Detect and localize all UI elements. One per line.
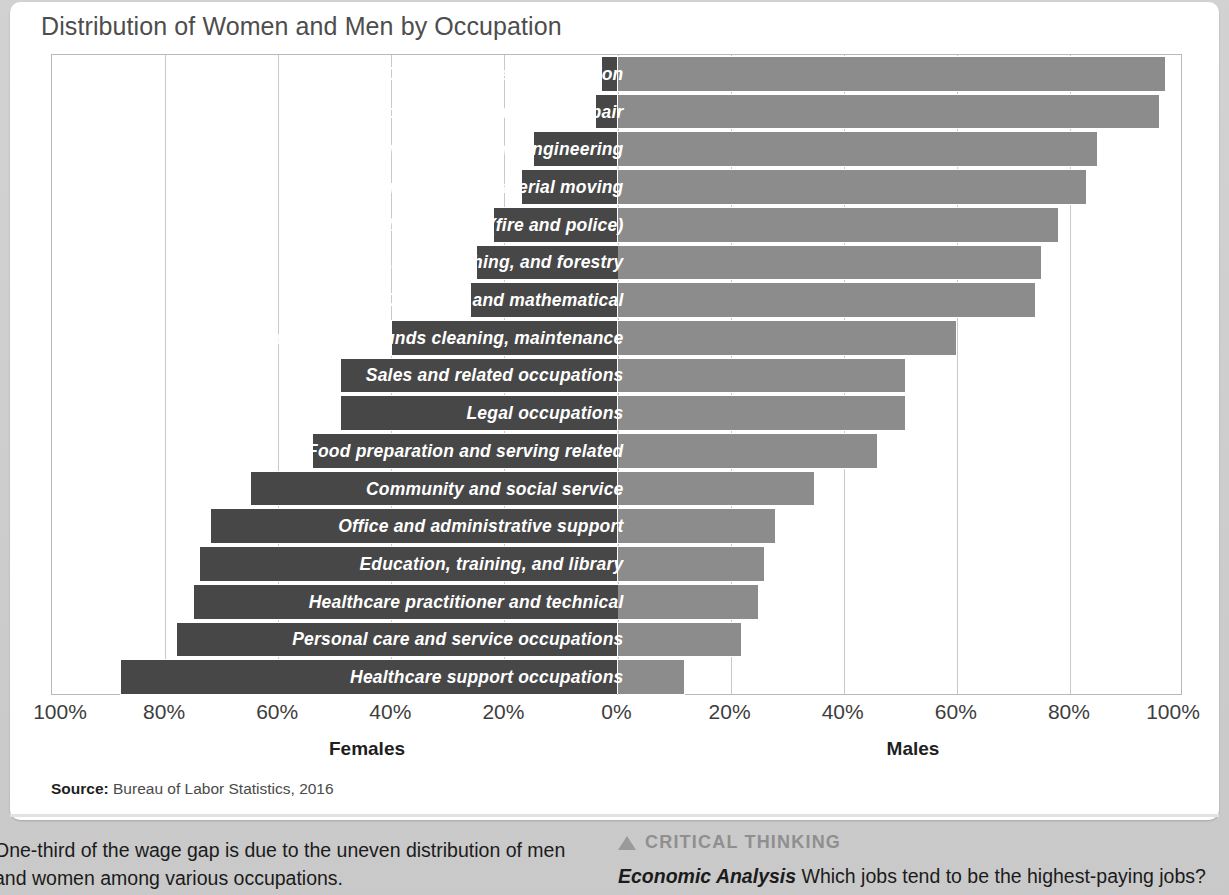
bar-row[interactable]: Office and administrative support [52,508,1181,544]
bar-male[interactable] [618,169,1087,205]
x-axis-tick: 60% [256,700,298,724]
bar-female[interactable] [493,207,617,243]
bar-female[interactable] [250,471,618,507]
textbook-page: Distribution of Women and Men by Occupat… [0,0,1229,895]
bar-row[interactable]: Farming, fishing, and forestry [52,245,1181,281]
bar-female[interactable] [340,358,617,394]
bar-male[interactable] [618,508,776,544]
bar-male[interactable] [618,395,906,431]
bar-label: Installation, maintenance, and repair [313,101,624,122]
x-axis-tick: 80% [143,700,185,724]
bar-female[interactable] [176,622,617,658]
bar-female[interactable] [595,94,618,130]
x-axis-tick: 20% [709,700,751,724]
bar-male[interactable] [618,622,742,658]
critical-thinking-block: CRITICAL THINKING Economic Analysis Whic… [618,832,1229,890]
bar-male[interactable] [618,131,1099,167]
bar-row[interactable]: Transportation and material moving [52,169,1181,205]
x-axis-tick: 40% [822,700,864,724]
page-title: Distribution of Women and Men by Occupat… [41,12,562,41]
x-axis-tick: 0% [601,700,631,724]
axis-caption-females: Females [329,738,405,760]
x-axis-tick: 80% [1048,700,1090,724]
x-axis-tick: 100% [1146,700,1200,724]
source-text: Bureau of Labor Statistics, 2016 [113,780,334,797]
bar-male[interactable] [618,320,957,356]
source-label: Source: [51,780,109,797]
bar-male[interactable] [618,245,1042,281]
bar-row[interactable]: Healthcare support occupations [52,659,1181,695]
bar-row[interactable]: Computer and mathematical [52,282,1181,318]
bar-female[interactable] [533,131,618,167]
bar-female[interactable] [199,546,617,582]
bar-female[interactable] [521,169,617,205]
bar-male[interactable] [618,94,1161,130]
critical-thinking-heading: CRITICAL THINKING [618,832,1229,853]
bar-male[interactable] [618,546,765,582]
bar-label: Construction and extraction [385,63,624,84]
bar-female[interactable] [391,320,617,356]
bar-male[interactable] [618,471,816,507]
bar-row[interactable]: Construction and extraction [52,56,1181,92]
bar-row[interactable]: Food preparation and serving related [52,433,1181,469]
x-axis-tick: 20% [482,700,524,724]
x-axis-tick: 60% [935,700,977,724]
bar-male[interactable] [618,584,759,620]
critical-thinking-lead: Economic Analysis [618,865,796,887]
card-divider [10,814,1219,817]
bar-row[interactable]: Sales and related occupations [52,358,1181,394]
bar-male[interactable] [618,659,686,695]
x-axis: 100%80%60%40%20%0%20%40%60%80%100% [51,700,1182,730]
critical-thinking-heading-label: CRITICAL THINKING [645,832,841,853]
bar-female[interactable] [120,659,618,695]
bar-female[interactable] [470,282,617,318]
critical-thinking-body: Economic Analysis Which jobs tend to be … [618,862,1229,890]
bar-female[interactable] [312,433,617,469]
axis-caption-males: Males [887,738,940,760]
bar-row[interactable]: Personal care and service occupations [52,622,1181,658]
bar-female[interactable] [601,56,618,92]
bar-row[interactable]: Healthcare practitioner and technical [52,584,1181,620]
bar-female[interactable] [193,584,617,620]
bar-male[interactable] [618,207,1059,243]
bar-male[interactable] [618,56,1167,92]
bar-group: Construction and extractionInstallation,… [52,55,1181,694]
bar-row[interactable]: Community and social service [52,471,1181,507]
footer-body-text: One-third of the wage gap is due to the … [0,836,594,892]
x-axis-tick: 100% [33,700,87,724]
bar-row[interactable]: Installation, maintenance, and repair [52,94,1181,130]
chart-plot-area: Construction and extractionInstallation,… [51,54,1182,695]
bar-female[interactable] [210,508,617,544]
bar-row[interactable]: Education, training, and library [52,546,1181,582]
bar-female[interactable] [340,395,617,431]
bar-male[interactable] [618,433,878,469]
bar-row[interactable]: Building and grounds cleaning, maintenan… [52,320,1181,356]
figure-card: Distribution of Women and Men by Occupat… [10,2,1219,820]
bar-male[interactable] [618,282,1036,318]
bar-row[interactable]: Architecture and engineering [52,131,1181,167]
bar-female[interactable] [476,245,617,281]
source-note: Source: Bureau of Labor Statistics, 2016 [51,780,334,798]
x-axis-tick: 40% [369,700,411,724]
critical-thinking-text: Which jobs tend to be the highest-paying… [802,865,1206,887]
triangle-icon [618,836,636,850]
bar-row[interactable]: Protective service (fire and police) [52,207,1181,243]
bar-male[interactable] [618,358,906,394]
bar-row[interactable]: Legal occupations [52,395,1181,431]
